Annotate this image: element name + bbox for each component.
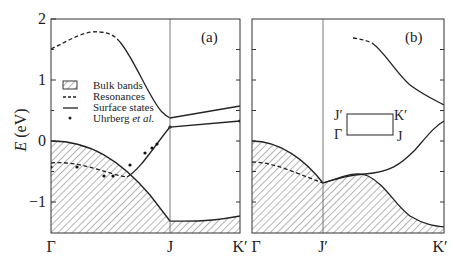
panel-a: Bulk bands Resonances Surface states Uhr… xyxy=(49,19,241,233)
inset-label-jprime: J′ xyxy=(334,108,343,123)
panel-b: J′ K′ Γ J (b) xyxy=(252,19,444,233)
legend-bulk-swatch xyxy=(63,81,77,89)
a-xlabel-j: J xyxy=(167,238,173,255)
b-xlabel-kprime: K′ xyxy=(432,238,447,255)
legend-dot-swatch xyxy=(69,117,72,120)
ytick-1: 1 xyxy=(38,71,46,88)
surface-state-upper-b xyxy=(372,43,444,105)
bulk-band-region xyxy=(51,141,240,233)
inset-label-kprime: K′ xyxy=(394,108,407,123)
ytick-0: 0 xyxy=(38,132,46,149)
brillouin-zone-inset: J′ K′ Γ J xyxy=(334,108,407,144)
b-xlabel-gamma: Γ xyxy=(251,238,260,255)
band-structure-figure: Bulk bands Resonances Surface states Uhr… xyxy=(0,0,462,258)
y-axis: 2 1 0 −1 E (eV) xyxy=(12,10,46,210)
inset-rectangle xyxy=(347,114,393,135)
b-xlabel-jprime: J′ xyxy=(318,238,328,255)
legend-uhrberg-etal: et al. xyxy=(132,112,154,124)
legend: Bulk bands Resonances Surface states Uhr… xyxy=(63,79,154,124)
y-axis-label: E (eV) xyxy=(12,108,30,152)
resonance-upper-b xyxy=(353,38,372,43)
ytick-m1: −1 xyxy=(29,193,46,210)
ytick-2: 2 xyxy=(38,10,46,27)
a-xlabel-gamma: Γ xyxy=(46,238,55,255)
surface-state-lower xyxy=(127,121,240,177)
legend-uhrberg-label: Uhrberg et al. xyxy=(93,112,154,124)
resonance-upper xyxy=(51,32,120,49)
panel-b-label: (b) xyxy=(405,29,423,46)
inset-label-j: J xyxy=(397,129,403,144)
inset-label-gamma: Γ xyxy=(334,127,342,142)
y-axis-var: E xyxy=(12,142,29,153)
legend-uhrberg-name: Uhrberg xyxy=(93,112,130,124)
a-xlabel-k: K′ xyxy=(232,238,247,255)
y-axis-unit: (eV) xyxy=(12,108,30,137)
panel-a-label: (a) xyxy=(201,29,218,46)
